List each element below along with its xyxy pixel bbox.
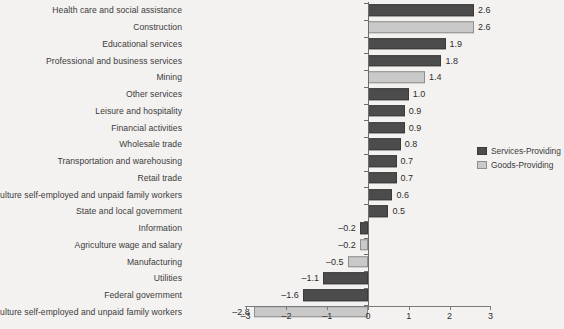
category-label: Retail trade [137,173,182,183]
category-label: Professional and business services [46,56,182,66]
bar-value-label: –0.2 [338,240,356,250]
zero-axis-tick [364,104,368,105]
zero-axis-tick [364,187,368,188]
chart-bar-row: Health care and social assistance2.6 [0,2,564,19]
x-axis-tick [450,306,451,310]
legend-label: Goods-Providing [491,160,553,170]
chart-bar [368,139,401,151]
zero-axis-tick [364,120,368,121]
category-label: Leisure and hospitality [95,106,182,116]
x-axis-tick [327,306,328,310]
bar-value-label: 2.6 [478,5,491,15]
chart-bar-row: Educational services1.9 [0,36,564,53]
chart-bar-row: Agriculture wage and salary–0.2 [0,237,564,254]
chart-bar-row: State and local government0.5 [0,203,564,220]
bar-value-label: 0.7 [401,173,414,183]
category-label: Manufacturing [127,257,182,267]
chart-bar-row: Information–0.2 [0,220,564,237]
zero-axis-tick [364,271,368,272]
zero-axis-tick [364,171,368,172]
zero-axis-tick [364,238,368,239]
zero-axis-tick [364,221,368,222]
chart-bar [368,88,409,100]
x-axis-tick-label: 1 [406,311,411,321]
category-label: Health care and social assistance [52,5,182,15]
category-label: Wholesale trade [119,139,182,149]
zero-axis-tick [364,254,368,255]
chart-bar [368,21,474,33]
category-label: Financial activities [111,123,182,133]
chart-bar [368,105,405,117]
category-label: Federal government [104,290,182,300]
x-axis-tick-label: –3 [241,311,251,321]
chart-bar [368,55,441,67]
x-axis-tick [409,306,410,310]
category-label: Educational services [102,39,182,49]
category-label: Agriculture self-employed and unpaid fam… [0,307,182,317]
category-label: Nonagriculture self-employed and unpaid … [0,190,182,200]
x-axis-tick [490,306,491,310]
chart-bar-row: Federal government–1.6 [0,287,564,304]
chart-bar [323,273,368,285]
chart-bar-row: Mining1.4 [0,69,564,86]
category-label: Transportation and warehousing [58,156,182,166]
x-axis-tick-label: 0 [365,311,370,321]
category-label: Utilities [154,273,182,283]
x-axis-tick-label: 3 [488,311,493,321]
legend-item-goods: Goods-Providing [477,159,561,171]
zero-axis-tick [364,20,368,21]
zero-axis-tick [364,87,368,88]
chart-legend: Services-ProvidingGoods-Providing [477,145,561,173]
chart-bar-row: Professional and business services1.8 [0,52,564,69]
x-axis-tick-label: –1 [322,311,332,321]
chart-bar [348,256,368,268]
legend-label: Services-Providing [491,146,561,156]
legend-item-services: Services-Providing [477,145,561,157]
zero-axis-tick [364,154,368,155]
chart-bar-row: Financial activities0.9 [0,119,564,136]
bar-value-label: 0.5 [392,206,405,216]
bar-value-label: 0.9 [409,123,422,133]
bar-value-label: 1.0 [413,89,426,99]
chart-bar [368,38,446,50]
category-label: Other services [126,89,182,99]
category-label: Information [138,223,182,233]
bar-value-label: –0.2 [338,223,356,233]
chart-bar [303,289,368,301]
zero-axis-tick [364,288,368,289]
zero-axis-tick [364,53,368,54]
chart-bar [368,189,392,201]
legend-swatch-icon [477,147,487,155]
zero-axis-line [368,2,369,307]
chart-bar-row: Nonagriculture self-employed and unpaid … [0,186,564,203]
chart-bar [368,122,405,134]
zero-axis-tick [364,137,368,138]
bar-value-label: –1.6 [281,290,299,300]
chart-bar [368,172,397,184]
bar-value-label: 0.9 [409,106,422,116]
chart-bar [368,155,397,167]
x-axis-tick [368,306,369,310]
bar-value-label: 1.8 [445,56,458,66]
bar-value-label: 0.8 [405,139,418,149]
chart-bar-row: Construction2.6 [0,19,564,36]
legend-swatch-icon [477,161,487,169]
zero-axis-tick [364,37,368,38]
x-axis-tick-label: 2 [447,311,452,321]
chart-bar [254,306,368,318]
category-label: Construction [133,22,182,32]
chart-bar [368,206,388,218]
chart-bar [368,72,425,84]
zero-axis-tick [364,70,368,71]
category-label: Mining [156,72,182,82]
x-axis-tick [246,306,247,310]
category-label: State and local government [76,206,182,216]
chart-bar-row: Other services1.0 [0,86,564,103]
zero-axis-tick [364,204,368,205]
x-axis-tick [286,306,287,310]
chart-bar [360,222,368,234]
chart-bar-row: Manufacturing–0.5 [0,253,564,270]
bar-value-label: 1.9 [450,39,463,49]
zero-axis-tick [364,3,368,4]
bar-value-label: 1.4 [429,72,442,82]
